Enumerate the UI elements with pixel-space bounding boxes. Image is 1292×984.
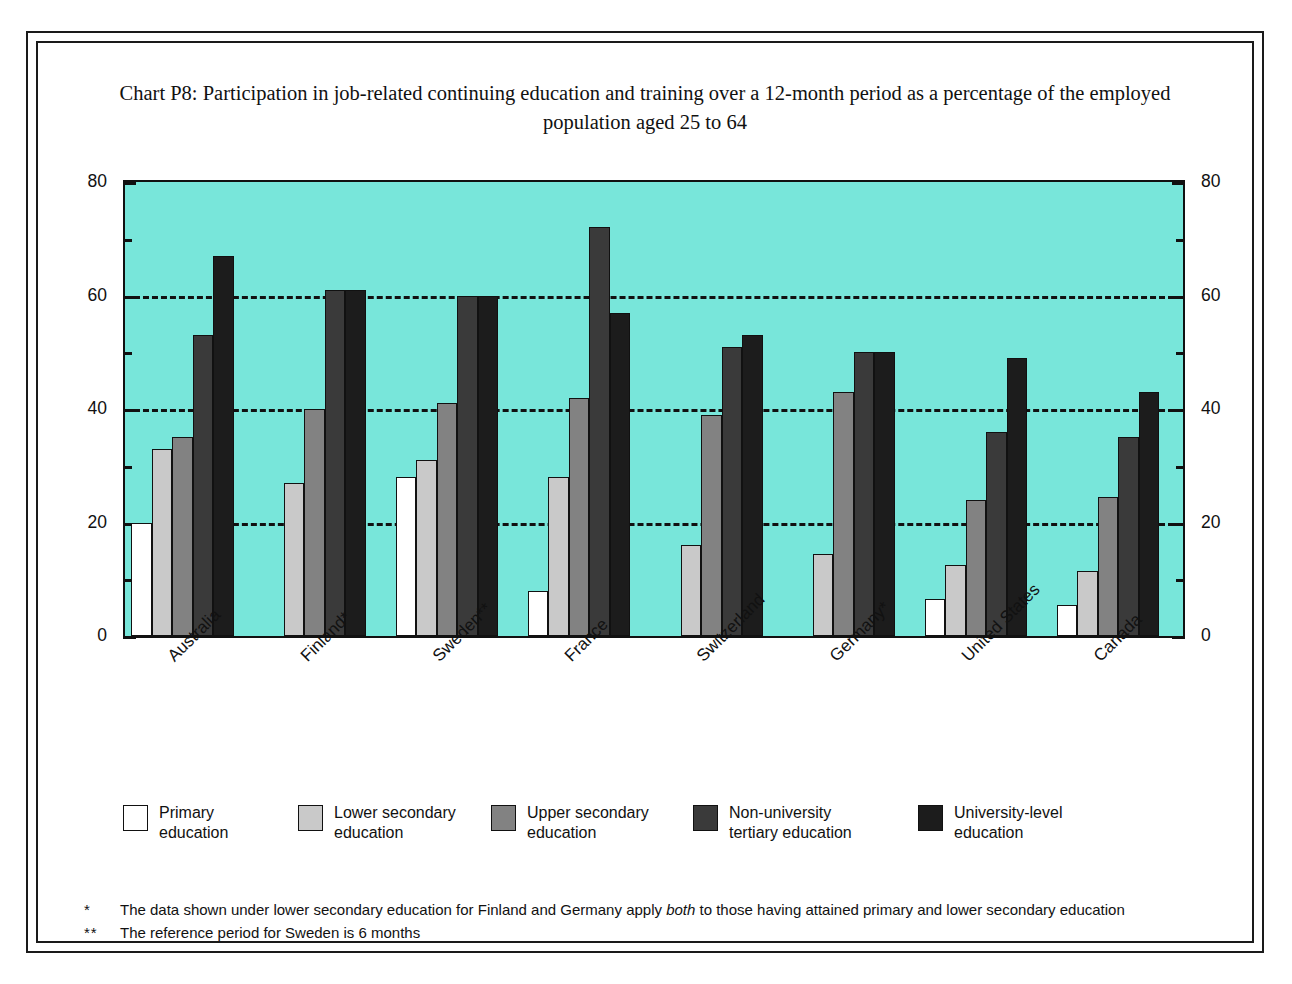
chart-outer-frame: Chart P8: Participation in job-related c… (26, 31, 1264, 953)
y-axis-label-right-20: 20 (1201, 512, 1271, 533)
footnote-emphasis: both (666, 901, 695, 918)
bar (925, 599, 946, 636)
legend-label: Primary education (159, 803, 228, 842)
legend-item[interactable]: Lower secondary education (298, 803, 456, 842)
plot-inner: 002020404060608080 (125, 182, 1183, 636)
footnote-marker: ** (84, 921, 98, 944)
bar (345, 290, 366, 636)
y-axis-label-right-40: 40 (1201, 398, 1271, 419)
legend-item[interactable]: Non-university tertiary education (693, 803, 852, 842)
y-tick-right-20 (1172, 523, 1185, 526)
legend-label: Upper secondary education (527, 803, 649, 842)
bar (193, 335, 214, 636)
y-axis-label-right-0: 0 (1201, 625, 1271, 646)
bar (457, 296, 478, 637)
y-tick-left-0 (123, 636, 136, 639)
bar (874, 352, 895, 636)
plot-area: 002020404060608080 (123, 180, 1185, 638)
bar (610, 313, 631, 636)
bar (437, 403, 458, 636)
bar (528, 591, 549, 636)
legend-label: Non-university tertiary education (729, 803, 852, 842)
bar (548, 477, 569, 636)
bar-group (528, 182, 631, 636)
y-axis-label-left-60: 60 (37, 285, 107, 306)
bar (1098, 497, 1119, 636)
y-tick-right-60 (1172, 296, 1185, 299)
bar (966, 500, 987, 636)
bar-group (131, 182, 234, 636)
legend-item[interactable]: Primary education (123, 803, 228, 842)
bar (945, 565, 966, 636)
y-tick-right-50 (1176, 352, 1185, 355)
legend-swatch (918, 805, 943, 831)
y-tick-right-70 (1176, 239, 1185, 242)
y-tick-right-40 (1172, 409, 1185, 412)
bar (213, 256, 234, 636)
bar (722, 347, 743, 636)
bar (1139, 392, 1160, 636)
bar (1077, 571, 1098, 636)
bar (701, 415, 722, 636)
y-axis-label-left-40: 40 (37, 398, 107, 419)
bar (478, 296, 499, 637)
bar (589, 227, 610, 636)
footnote-text: The reference period for Sweden is 6 mon… (120, 924, 420, 941)
bar (284, 483, 305, 636)
footnote-text: The data shown under lower secondary edu… (120, 901, 666, 918)
y-tick-right-0 (1172, 636, 1185, 639)
footnote: *The data shown under lower secondary ed… (78, 898, 1222, 921)
y-axis-label-right-60: 60 (1201, 285, 1271, 306)
chart-footnotes: *The data shown under lower secondary ed… (78, 898, 1222, 944)
bar (833, 392, 854, 636)
bar-group (925, 182, 1028, 636)
y-tick-right-10 (1176, 579, 1185, 582)
bar (569, 398, 590, 636)
legend-item[interactable]: Upper secondary education (491, 803, 649, 842)
bar-group (660, 182, 763, 636)
bar (854, 352, 875, 636)
y-axis-label-left-0: 0 (37, 625, 107, 646)
bar (152, 449, 173, 636)
chart-title: Chart P8: Participation in job-related c… (98, 79, 1192, 137)
chart-legend: Primary educationLower secondary educati… (123, 803, 1185, 863)
legend-label: Lower secondary education (334, 803, 456, 842)
bar (1118, 437, 1139, 636)
y-axis-label-right-80: 80 (1201, 171, 1271, 192)
legend-item[interactable]: University-level education (918, 803, 1062, 842)
chart-inner-frame: Chart P8: Participation in job-related c… (36, 41, 1254, 943)
bar (325, 290, 346, 636)
bar (396, 477, 417, 636)
bar-group (792, 182, 895, 636)
bar (172, 437, 193, 636)
y-axis-label-left-20: 20 (37, 512, 107, 533)
legend-swatch (693, 805, 718, 831)
y-tick-right-80 (1172, 182, 1185, 185)
bar-group (396, 182, 499, 636)
bar-group (263, 182, 366, 636)
bar (131, 523, 152, 637)
y-axis-label-left-80: 80 (37, 171, 107, 192)
bar (681, 545, 702, 636)
footnote: **The reference period for Sweden is 6 m… (78, 921, 1222, 944)
bar (304, 409, 325, 636)
legend-swatch (123, 805, 148, 831)
footnote-text: to those having attained primary and low… (695, 901, 1124, 918)
legend-swatch (491, 805, 516, 831)
legend-swatch (298, 805, 323, 831)
footnote-marker: * (84, 898, 91, 921)
legend-label: University-level education (954, 803, 1062, 842)
y-tick-right-30 (1176, 466, 1185, 469)
bar (813, 554, 834, 636)
bar (416, 460, 437, 636)
bar (1057, 605, 1078, 636)
bar-group (1057, 182, 1160, 636)
